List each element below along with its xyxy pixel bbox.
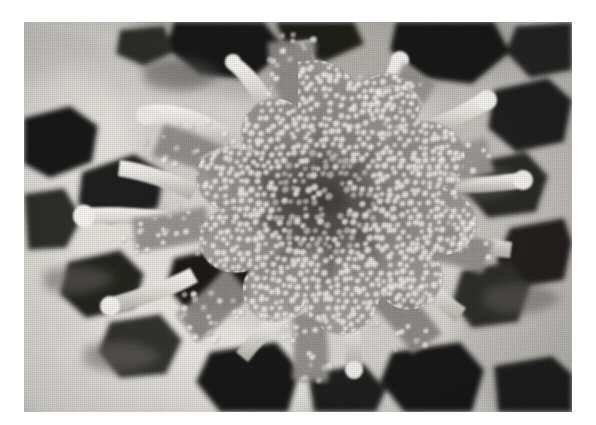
micrograph-image [24, 22, 572, 412]
page-canvas: Scanning electron micrograph of a radial… [0, 0, 596, 425]
micrograph-frame [24, 22, 572, 412]
figure-alt-text: Scanning electron micrograph of a radial… [0, 0, 1, 1]
